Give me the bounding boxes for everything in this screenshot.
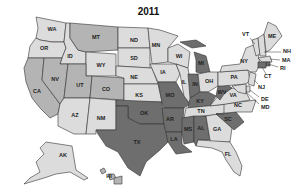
state-hi[interactable]	[100, 168, 106, 174]
state-nj[interactable]	[248, 72, 256, 86]
label-ne: NE	[130, 74, 138, 80]
label-ks: KS	[135, 92, 143, 98]
label-ct: CT	[264, 73, 272, 79]
label-ga: GA	[213, 126, 221, 132]
label-wv: WV	[218, 89, 227, 95]
label-va: VA	[229, 92, 236, 98]
label-ri: RI	[280, 65, 286, 71]
label-de: DE	[261, 96, 269, 102]
label-ia: IA	[160, 69, 166, 75]
label-il: IL	[182, 79, 188, 85]
label-nd: ND	[130, 37, 138, 43]
label-ut: UT	[76, 82, 84, 88]
label-tn: TN	[197, 108, 204, 114]
label-sd: SD	[130, 55, 138, 61]
state-ks[interactable]	[124, 84, 162, 102]
label-in: IN	[192, 81, 198, 87]
state-ak[interactable]	[24, 142, 88, 184]
leader-de	[250, 90, 259, 97]
label-az: AZ	[71, 112, 79, 118]
label-mt: MT	[92, 34, 101, 40]
label-oh: OH	[205, 78, 213, 84]
label-ky: KY	[196, 98, 204, 104]
label-nj: NJ	[258, 84, 265, 90]
label-tx: TX	[133, 139, 140, 145]
label-sc: SC	[224, 116, 232, 122]
label-ny: NY	[240, 58, 248, 64]
label-co: CO	[102, 86, 111, 92]
label-al: AL	[197, 125, 205, 131]
label-mo: MO	[166, 92, 176, 98]
map-svg: WA OR CA ID NV MT WY UT AZ CO NM ND SD N…	[0, 0, 297, 192]
label-ma: MA	[282, 57, 291, 63]
label-la: LA	[170, 136, 177, 142]
label-wi: WI	[176, 53, 183, 59]
label-mi: MI	[198, 60, 205, 66]
label-ca: CA	[33, 88, 41, 94]
label-hi: HI	[106, 173, 112, 179]
label-nv: NV	[51, 76, 59, 82]
label-fl: FL	[225, 151, 232, 157]
state-de[interactable]	[246, 86, 250, 92]
label-wa: WA	[48, 26, 57, 32]
label-ak: AK	[59, 152, 67, 158]
label-md: MD	[261, 104, 270, 110]
state-mi-upper[interactable]	[180, 40, 206, 48]
label-id: ID	[67, 53, 73, 59]
label-nm: NM	[97, 115, 106, 121]
state-fl[interactable]	[196, 140, 242, 176]
label-ms: MS	[184, 126, 193, 132]
label-ok: OK	[140, 110, 148, 116]
label-wy: WY	[97, 62, 106, 68]
label-nc: NC	[234, 102, 242, 108]
label-mn: MN	[152, 42, 161, 48]
label-or: OR	[40, 45, 48, 51]
us-choropleth-map: 2011	[0, 0, 297, 192]
label-nh: NH	[283, 48, 291, 54]
label-vt: VT	[242, 31, 250, 37]
state-ma[interactable]	[258, 56, 272, 62]
label-ar: AR	[166, 116, 174, 122]
label-pa: PA	[230, 74, 237, 80]
label-me: ME	[268, 33, 277, 39]
